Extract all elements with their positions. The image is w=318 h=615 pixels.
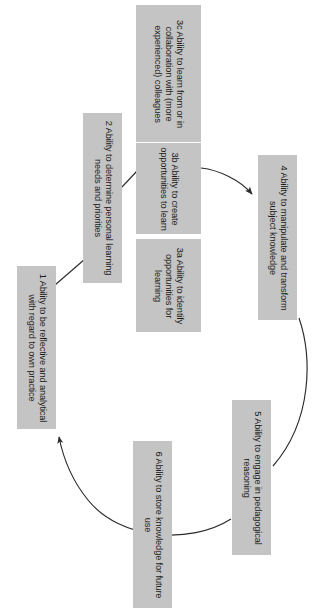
node-2-label: 2 Ability to determine personal learning…: [92, 116, 114, 281]
node-4-label: 4 Ability to manipulate and transform su…: [267, 158, 289, 318]
node-3c-label: 3c Ability to learn from or in collabora…: [152, 8, 185, 140]
node-1-label: 1 Ability to be reflective and analytica…: [26, 269, 48, 427]
link-3-to-4: [201, 168, 252, 194]
node-3a[interactable]: 3a Ability to identify opportunities for…: [136, 239, 201, 332]
node-3b-label: 3b Ability to create opportunities to le…: [158, 146, 180, 232]
node-5-label: 5 Ability to engage in pedagogical reaso…: [241, 403, 263, 553]
node-6-label: 6 Ability to store knowledge for future …: [142, 444, 164, 606]
node-3c[interactable]: 3c Ability to learn from or in collabora…: [136, 5, 201, 142]
node-1[interactable]: 1 Ability to be reflective and analytica…: [17, 266, 56, 429]
node-3b[interactable]: 3b Ability to create opportunities to le…: [136, 143, 201, 234]
link-2-to-3: [122, 171, 137, 187]
link-4-to-5: [273, 318, 307, 466]
link-1-to-2: [55, 259, 85, 285]
node-3a-label: 3a Ability to identify opportunities for…: [152, 242, 185, 330]
node-4[interactable]: 4 Ability to manipulate and transform su…: [258, 155, 297, 320]
node-6[interactable]: 6 Ability to store knowledge for future …: [133, 441, 172, 608]
node-5[interactable]: 5 Ability to engage in pedagogical reaso…: [232, 400, 271, 555]
diagram-canvas: 3c Ability to learn from or in collabora…: [0, 0, 318, 615]
node-2[interactable]: 2 Ability to determine personal learning…: [83, 113, 122, 283]
